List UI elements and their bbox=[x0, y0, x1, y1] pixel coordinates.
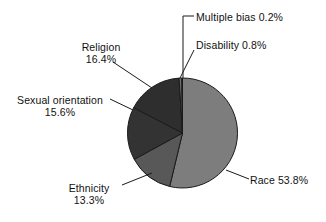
leader-line-sexual-orientation bbox=[110, 99, 133, 110]
pie-slice-multiple-bias[interactable] bbox=[182, 78, 183, 133]
pie-slices bbox=[127, 78, 237, 188]
leader-line-disability bbox=[180, 50, 194, 78]
pie-label-sexual-orientation-percent: 15.6% bbox=[8, 106, 112, 118]
pie-label-religion: Religion 16.4% bbox=[68, 41, 134, 65]
pie-label-religion-percent: 16.4% bbox=[68, 53, 134, 65]
pie-label-ethnicity-name: Ethnicity bbox=[58, 182, 120, 194]
pie-chart-figure: Multiple bias 0.2% Disability 0.8% Relig… bbox=[0, 0, 326, 222]
pie-label-religion-name: Religion bbox=[68, 41, 134, 53]
leader-line-race bbox=[226, 170, 249, 179]
pie-label-sexual-orientation: Sexual orientation 15.6% bbox=[8, 94, 112, 118]
pie-label-ethnicity: Ethnicity 13.3% bbox=[58, 182, 120, 206]
pie-label-race: Race 53.8% bbox=[250, 174, 308, 186]
pie-label-multiple-bias: Multiple bias 0.2% bbox=[196, 11, 283, 23]
pie-label-disability: Disability 0.8% bbox=[196, 39, 266, 51]
pie-label-sexual-orientation-name: Sexual orientation bbox=[8, 94, 112, 106]
leader-line-ethnicity bbox=[122, 173, 152, 185]
pie-label-ethnicity-percent: 13.3% bbox=[58, 194, 120, 206]
leader-line-religion bbox=[113, 62, 152, 88]
